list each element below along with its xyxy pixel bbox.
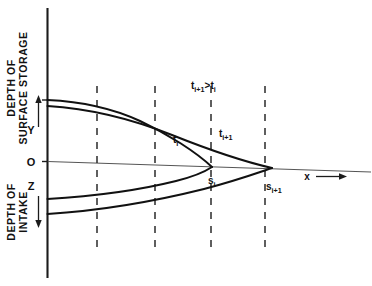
curve-ti-lower (48, 167, 213, 199)
y-tick-label-O: O (27, 156, 36, 168)
upper-region-label-line1: DEPTH OF (5, 59, 17, 117)
figure-canvas: Y O Z DEPTH OF SURFACE STORAGE DEPTH OF … (0, 0, 372, 286)
upper-region-label-line2: SURFACE STORAGE (17, 31, 29, 144)
curve-tiplus1-upper (48, 106, 273, 168)
point-label-siplus1: si+1 (266, 181, 282, 195)
arrow-right-icon (339, 173, 347, 179)
curve-ti-upper (48, 100, 213, 167)
curve-tiplus1-lower (48, 168, 273, 214)
arrow-down-icon (35, 220, 41, 228)
point-label-si-sub: i (214, 180, 216, 189)
curve-label-tiplus1: ti+1 (219, 128, 233, 142)
inequality-sub-right: i (214, 85, 216, 94)
curve-label-ti: ti (173, 134, 178, 148)
y-tick-label-Z: Z (28, 180, 35, 192)
hydrology-profile-figure: Y O Z DEPTH OF SURFACE STORAGE DEPTH OF … (0, 0, 372, 286)
lower-region-label-line1: DEPTH OF (5, 183, 17, 241)
x-axis-label: x (304, 171, 310, 182)
curve-label-ti-sub: i (176, 139, 178, 148)
point-label-siplus1-sub: i+1 (272, 186, 282, 195)
distance-axis-line (48, 162, 372, 173)
inequality-annotation: ti+1>ti (191, 80, 216, 94)
lower-region-label-line2: INTAKE (17, 191, 29, 233)
arrow-up-icon (35, 95, 41, 103)
curve-label-tiplus1-sub: i+1 (222, 133, 232, 142)
inequality-sub-left: i+1 (194, 85, 204, 94)
